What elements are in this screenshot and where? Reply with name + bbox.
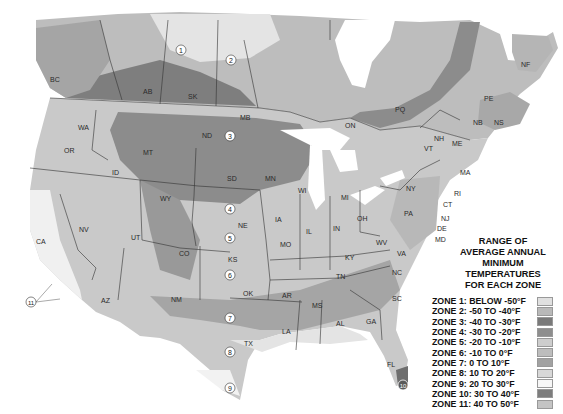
legend-label: ZONE 3: -40 TO -30°F <box>432 317 533 327</box>
usa-landmass <box>30 98 488 400</box>
label-ca: CA <box>36 238 46 245</box>
legend-row: ZONE 11: 40 TO 50°F <box>432 399 562 409</box>
svg-text:2: 2 <box>229 57 233 64</box>
svg-text:11: 11 <box>28 300 35 306</box>
label-wa: WA <box>78 124 89 131</box>
label-wv: WV <box>376 239 388 246</box>
legend-label: ZONE 9: 20 TO 30°F <box>432 379 533 389</box>
zone-marker-3: 3 <box>225 131 235 141</box>
legend-swatch <box>537 369 553 378</box>
zone-legend: RANGE OF AVERAGE ANNUAL MINIMUM TEMPERAT… <box>432 236 562 409</box>
svg-text:7: 7 <box>228 315 232 322</box>
label-fl: FL <box>387 361 395 368</box>
svg-text:6: 6 <box>228 272 232 279</box>
legend-label: ZONE 11: 40 TO 50°F <box>432 399 533 409</box>
legend-swatch <box>537 348 553 357</box>
label-co: CO <box>179 250 190 257</box>
legend-swatch <box>537 328 553 337</box>
legend-label: ZONE 7: 0 TO 10°F <box>432 358 533 368</box>
label-nm: NM <box>171 296 182 303</box>
label-or: OR <box>64 147 75 154</box>
label-pq: PQ <box>395 106 406 114</box>
label-sk: SK <box>188 93 198 100</box>
label-pe: PE <box>484 95 494 102</box>
label-pa: PA <box>404 210 413 217</box>
label-id: ID <box>112 169 119 176</box>
label-mt: MT <box>143 149 154 156</box>
label-tx: TX <box>244 340 253 347</box>
legend-row: ZONE 1: BELOW -50°F <box>432 296 562 306</box>
label-ar: AR <box>282 292 292 299</box>
label-ga: GA <box>366 318 376 325</box>
label-ns: NS <box>494 119 504 126</box>
label-wy: WY <box>160 195 172 202</box>
label-ms: MS <box>312 302 323 309</box>
label-la: LA <box>282 328 291 335</box>
label-me: ME <box>452 140 463 147</box>
label-ct: CT <box>443 201 453 208</box>
legend-row: ZONE 2: -50 TO -40°F <box>432 306 562 316</box>
label-ri: RI <box>454 190 461 197</box>
label-bc: BC <box>50 76 60 83</box>
legend-swatch <box>537 317 553 326</box>
legend-rows: ZONE 1: BELOW -50°FZONE 2: -50 TO -40°FZ… <box>432 296 562 409</box>
legend-label: ZONE 10: 30 TO 40°F <box>432 389 533 399</box>
zone-marker-8: 8 <box>225 347 235 357</box>
zone-marker-9: 9 <box>225 383 235 393</box>
zone-marker-2: 2 <box>226 55 236 65</box>
label-de: DE <box>437 225 447 232</box>
zone-marker-6: 6 <box>225 270 235 280</box>
legend-label: ZONE 1: BELOW -50°F <box>432 296 533 306</box>
legend-row: ZONE 5: -20 TO -10°F <box>432 337 562 347</box>
legend-swatch <box>537 389 553 398</box>
legend-label: ZONE 4: -30 TO -20°F <box>432 327 533 337</box>
legend-label: ZONE 5: -20 TO -10°F <box>432 337 533 347</box>
label-ky: KY <box>345 254 355 261</box>
legend-swatch <box>537 358 553 367</box>
label-vt: VT <box>424 145 434 152</box>
label-mb: MB <box>240 114 251 121</box>
legend-swatch <box>537 400 553 409</box>
label-ia: IA <box>275 216 282 223</box>
label-wi: WI <box>298 187 307 194</box>
legend-row: ZONE 8: 10 TO 20°F <box>432 368 562 378</box>
label-az: AZ <box>101 297 111 304</box>
legend-label: ZONE 6: -10 TO 0°F <box>432 348 533 358</box>
label-al: AL <box>336 320 345 327</box>
label-va: VA <box>397 250 406 257</box>
svg-text:10: 10 <box>400 383 407 389</box>
label-ma: MA <box>460 169 471 176</box>
label-nc: NC <box>392 269 402 276</box>
label-sd: SD <box>227 175 237 182</box>
label-on: ON <box>345 122 356 129</box>
label-nf: NF <box>521 61 530 68</box>
svg-text:1: 1 <box>179 47 183 54</box>
label-nv: NV <box>79 226 89 233</box>
svg-text:3: 3 <box>228 133 232 140</box>
legend-row: ZONE 4: -30 TO -20°F <box>432 327 562 337</box>
legend-row: ZONE 7: 0 TO 10°F <box>432 358 562 368</box>
legend-label: ZONE 2: -50 TO -40°F <box>432 306 533 316</box>
label-il: IL <box>306 228 312 235</box>
label-in: IN <box>333 225 340 232</box>
legend-swatch <box>537 379 553 388</box>
svg-text:5: 5 <box>228 235 232 242</box>
legend-row: ZONE 6: -10 TO 0°F <box>432 347 562 357</box>
svg-text:8: 8 <box>228 349 232 356</box>
zone-marker-1: 1 <box>176 45 186 55</box>
label-ny: NY <box>406 185 416 192</box>
label-mn: MN <box>265 175 276 182</box>
zone-marker-7: 7 <box>225 313 235 323</box>
legend-swatch <box>537 307 553 316</box>
zone-marker-5: 5 <box>225 233 235 243</box>
label-oh: OH <box>357 215 368 222</box>
zone-marker-10: 10 <box>398 380 408 390</box>
legend-label: ZONE 8: 10 TO 20°F <box>432 368 533 378</box>
legend-title: RANGE OF AVERAGE ANNUAL MINIMUM TEMPERAT… <box>444 236 562 291</box>
zone-marker-11: 11 <box>26 284 60 307</box>
label-ab: AB <box>143 88 153 95</box>
label-ks: KS <box>228 256 238 263</box>
label-sc: SC <box>392 295 402 302</box>
legend-row: ZONE 9: 20 TO 30°F <box>432 378 562 388</box>
label-nj: NJ <box>441 215 450 222</box>
